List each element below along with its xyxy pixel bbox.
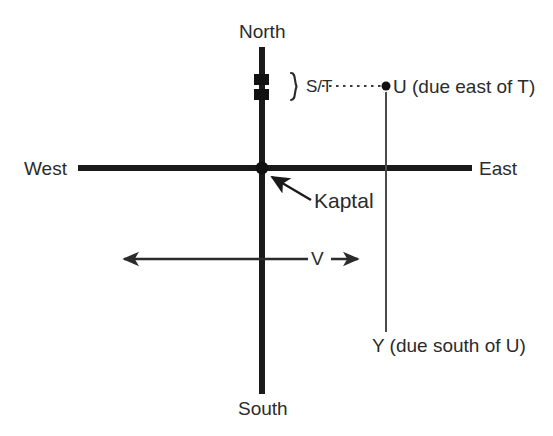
label-vector-v: V bbox=[311, 249, 324, 268]
compass-diagram: North South West East Kaptal S/T U (due … bbox=[0, 0, 553, 436]
label-kaptal: Kaptal bbox=[314, 190, 374, 211]
segment-marker-t-square bbox=[254, 89, 269, 100]
diagram-canvas bbox=[0, 0, 553, 436]
point-dot-u bbox=[382, 82, 391, 91]
label-east: East bbox=[479, 159, 517, 178]
label-south: South bbox=[238, 399, 288, 418]
segment-marker-s-square bbox=[254, 74, 269, 85]
label-point-u: U (due east of T) bbox=[393, 77, 535, 96]
label-north: North bbox=[239, 22, 285, 41]
origin-dot-kaptal bbox=[256, 162, 269, 175]
label-point-y: Y (due south of U) bbox=[372, 336, 526, 355]
kaptal-pointer-arrow bbox=[272, 177, 311, 200]
label-segment-st: S/T bbox=[306, 78, 332, 95]
label-west: West bbox=[24, 159, 67, 178]
segment-brace bbox=[291, 73, 297, 100]
